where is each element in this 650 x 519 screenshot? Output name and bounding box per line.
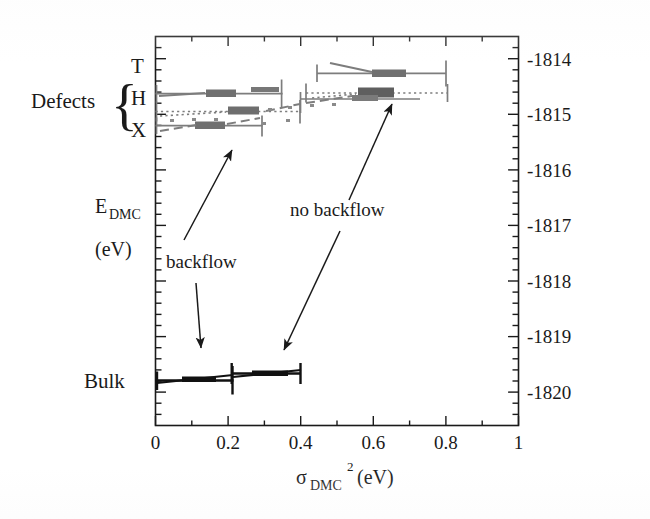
x-tick-labels: 0 0.2 0.4 0.6 0.8 1: [151, 432, 524, 453]
annotation-backflow: backflow: [166, 251, 237, 272]
defects-group: Defects { T H X: [31, 54, 146, 142]
row-label-h: H: [131, 86, 146, 110]
x-axis-subscript: DMC: [310, 478, 342, 493]
x-axis-superscript: 2: [347, 459, 354, 474]
x-tick-label-4: 0.8: [434, 432, 458, 453]
y-axis-symbol: E: [95, 195, 107, 217]
y-tick-label-3: -1817: [527, 215, 571, 236]
y-tick-label-0: -1814: [527, 49, 572, 70]
row-label-t: T: [131, 54, 144, 78]
chart-svg: 0 0.2 0.4 0.6 0.8 1 -1814 -1815 -1816 -1…: [0, 0, 650, 519]
defects-label: Defects: [31, 89, 95, 113]
y-tick-label-1: -1815: [527, 104, 571, 125]
x-tick-label-0: 0: [151, 432, 161, 453]
annotation-no-backflow: no backflow: [290, 199, 385, 220]
figure-root: 0 0.2 0.4 0.6 0.8 1 -1814 -1815 -1816 -1…: [0, 0, 650, 519]
x-tick-label-1: 0.2: [216, 432, 240, 453]
y-tick-label-4: -1818: [527, 271, 571, 292]
y-axis-title: E DMC (eV): [95, 195, 141, 261]
y-tick-label-2: -1816: [527, 160, 571, 181]
x-tick-label-2: 0.4: [289, 432, 313, 453]
y-tick-label-5: -1819: [527, 326, 571, 347]
row-label-x: X: [131, 118, 146, 142]
y-axis-subscript: DMC: [109, 207, 141, 222]
y-tick-labels: -1814 -1815 -1816 -1817 -1818 -1819 -182…: [527, 49, 572, 403]
x-tick-label-5: 1: [514, 432, 524, 453]
x-axis-title: σ DMC 2 (eV): [296, 459, 394, 493]
bulk-label: Bulk: [84, 369, 125, 393]
x-axis-unit: (eV): [357, 466, 394, 489]
x-axis-symbol: σ: [296, 466, 307, 488]
y-tick-label-6: -1820: [527, 382, 571, 403]
y-axis-unit: (eV): [95, 238, 132, 261]
x-tick-label-3: 0.6: [361, 432, 385, 453]
